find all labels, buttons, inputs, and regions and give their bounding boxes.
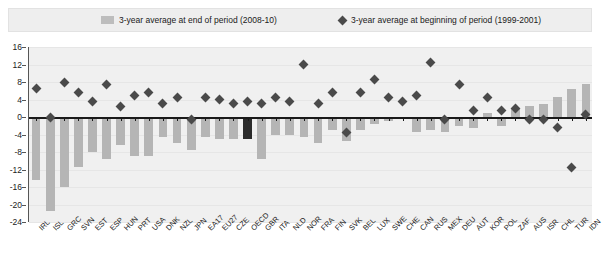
marker-aut <box>468 105 478 115</box>
y-tick-mark <box>22 205 26 206</box>
y-tick-mark <box>22 187 26 188</box>
x-tick-mark <box>290 117 291 121</box>
x-tick-mark <box>473 117 474 121</box>
x-tick-mark <box>163 117 164 121</box>
x-tick-mark <box>572 117 573 121</box>
x-axis: IRLISLGRCSVNESTESPHUNPRTUSADNKNZLJPNEA17… <box>28 224 592 261</box>
x-tick-mark <box>515 117 516 121</box>
bar-est <box>88 117 97 152</box>
bar-esp <box>102 117 111 159</box>
legend-bar-swatch-icon <box>101 16 114 24</box>
x-tick-mark <box>36 117 37 121</box>
legend-diamond-icon <box>338 15 348 25</box>
x-tick-mark <box>78 117 79 121</box>
gridline <box>29 65 592 66</box>
bar-hun <box>116 117 125 145</box>
bar-tur <box>567 89 576 117</box>
x-tick-mark <box>262 117 263 121</box>
gridline <box>29 100 592 101</box>
marker-fin <box>327 88 337 98</box>
x-tick-mark <box>219 117 220 121</box>
gridline <box>29 170 592 171</box>
x-tick-mark <box>487 117 488 121</box>
y-tick-label: -8 <box>14 147 22 157</box>
bar-irl <box>32 117 41 180</box>
marker-tur <box>567 162 577 172</box>
gridline <box>29 47 592 48</box>
marker-pol <box>496 105 506 115</box>
legend-bar-label: 3-year average at end of period (2008-10… <box>119 15 277 25</box>
bar-chl <box>553 97 562 117</box>
x-tick-mark <box>248 117 249 121</box>
plot-area <box>29 47 592 222</box>
gridline <box>29 152 592 153</box>
x-tick-mark <box>121 117 122 121</box>
y-tick-mark <box>22 152 26 153</box>
marker-che <box>398 97 408 107</box>
marker-bel <box>355 88 365 98</box>
marker-esp <box>102 79 112 89</box>
x-tick-mark <box>64 117 65 121</box>
marker-nld <box>285 97 295 107</box>
legend-marker-label: 3-year average at beginning of period (1… <box>351 15 541 25</box>
x-tick-mark <box>374 117 375 121</box>
zero-axis-line <box>29 117 592 119</box>
marker-irl <box>31 84 41 94</box>
plot-frame <box>28 47 592 222</box>
bar-usa <box>144 117 153 156</box>
marker-kor <box>482 92 492 102</box>
y-tick-label: -4 <box>14 130 22 140</box>
marker-swe <box>384 92 394 102</box>
x-tick-mark <box>107 117 108 121</box>
x-tick-mark <box>389 117 390 121</box>
bar-gbr <box>257 117 266 159</box>
x-tick-mark <box>149 117 150 121</box>
gridline <box>29 205 592 206</box>
marker-usa <box>144 88 154 98</box>
y-tick-mark <box>22 100 26 101</box>
y-tick-mark <box>22 135 26 136</box>
x-tick-mark <box>459 117 460 121</box>
x-tick-mark <box>431 117 432 121</box>
y-tick-label: -20 <box>10 200 22 210</box>
marker-oecd <box>243 97 253 107</box>
bar-grc <box>60 117 69 187</box>
gridline <box>29 135 592 136</box>
x-tick-mark <box>276 117 277 121</box>
marker-nzl <box>172 92 182 102</box>
x-tick-mark <box>233 117 234 121</box>
legend-entry-bar: 3-year average at end of period (2008-10… <box>101 13 277 27</box>
y-tick-mark <box>22 222 26 223</box>
bar-isl <box>46 117 55 211</box>
marker-ea17 <box>200 92 210 102</box>
marker-grc <box>59 77 69 87</box>
y-tick-mark <box>22 65 26 66</box>
x-tick-mark <box>205 117 206 121</box>
y-tick-mark <box>22 82 26 83</box>
y-tick-mark <box>22 170 26 171</box>
x-tick-mark <box>346 117 347 121</box>
x-tick-mark <box>360 117 361 121</box>
x-tick-mark <box>304 117 305 121</box>
chart-legend: 3-year average at end of period (2008-10… <box>8 8 592 32</box>
x-tick-mark <box>558 117 559 121</box>
marker-rus <box>426 57 436 67</box>
x-tick-mark <box>332 117 333 121</box>
x-tick-mark <box>417 117 418 121</box>
x-tick-mark <box>92 117 93 121</box>
y-tick-label: 16 <box>13 42 22 52</box>
marker-svn <box>73 88 83 98</box>
marker-lux <box>369 75 379 85</box>
x-tick-mark <box>403 117 404 121</box>
legend-entry-marker: 3-year average at beginning of period (1… <box>339 13 541 27</box>
y-tick-mark <box>22 47 26 48</box>
marker-est <box>87 97 97 107</box>
marker-hun <box>116 101 126 111</box>
marker-ita <box>271 92 281 102</box>
marker-eu27 <box>214 95 224 105</box>
y-tick-label: -16 <box>10 182 22 192</box>
marker-deu <box>454 79 464 89</box>
gridline <box>29 187 592 188</box>
bar-svn <box>74 117 83 167</box>
